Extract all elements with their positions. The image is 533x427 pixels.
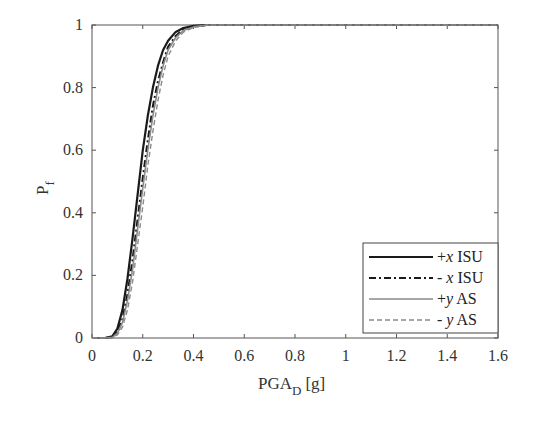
x-tick-label: 1.4 xyxy=(437,347,457,364)
svg-text:Pf: Pf xyxy=(33,180,57,194)
legend: +x ISU- x ISU+y AS- y AS xyxy=(363,243,498,333)
y-tick-label: 1 xyxy=(75,16,83,33)
x-tick-label: 0.4 xyxy=(184,347,204,364)
svg-text:PGAD[g]: PGAD[g] xyxy=(258,374,325,398)
x-tick-label: 0 xyxy=(88,347,96,364)
x-tick-label: 0.6 xyxy=(234,347,254,364)
legend-label: +x ISU xyxy=(437,248,483,265)
y-tick-label: 0.6 xyxy=(63,141,83,158)
x-tick-label: 0.8 xyxy=(285,347,305,364)
y-axis-label: Pf xyxy=(33,180,57,194)
y-tick-label: 0.4 xyxy=(63,204,83,221)
x-tick-label: 1 xyxy=(342,347,350,364)
x-tick-label: 0.2 xyxy=(133,347,153,364)
y-tick-label: 0 xyxy=(75,329,83,346)
fragility-chart: 00.20.40.60.811.21.41.6 00.20.40.60.81 P… xyxy=(0,0,533,427)
x-axis-label: PGAD[g] xyxy=(258,374,325,398)
y-tick-label: 0.2 xyxy=(63,266,83,283)
x-tick-label: 1.2 xyxy=(387,347,407,364)
y-tick-label: 0.8 xyxy=(63,79,83,96)
legend-label: +y AS xyxy=(437,290,477,308)
legend-label: - x ISU xyxy=(437,269,484,286)
x-tick-label: 1.6 xyxy=(488,347,508,364)
legend-label: - y AS xyxy=(437,311,477,329)
